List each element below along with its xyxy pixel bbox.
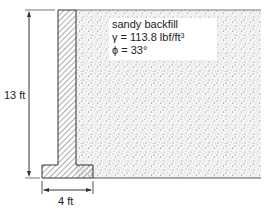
- arrow-left-icon: [43, 188, 49, 192]
- unit-weight-exponent: 3: [181, 32, 185, 39]
- unit-weight-value: 113.8 lbf/ft: [130, 31, 181, 43]
- unit-weight-line: γ = 113.8 lbf/ft3: [109, 31, 217, 44]
- arrow-right-icon: [86, 188, 92, 192]
- backfill-properties-box: sandy backfill γ = 113.8 lbf/ft3 ϕ = 33°: [109, 18, 217, 60]
- backfill-title: sandy backfill: [109, 18, 217, 31]
- friction-angle-value: 33°: [131, 44, 148, 56]
- phi-symbol: ϕ: [112, 44, 118, 56]
- height-label: 13 ft: [4, 89, 25, 101]
- arrow-down-icon: [27, 171, 31, 177]
- base-width-label: 4 ft: [58, 195, 73, 207]
- arrow-up-icon: [27, 11, 31, 17]
- gamma-symbol: γ: [112, 31, 118, 43]
- friction-angle-line: ϕ = 33°: [109, 44, 217, 57]
